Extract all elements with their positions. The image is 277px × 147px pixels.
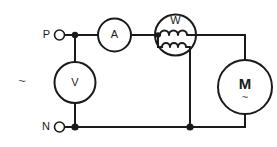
neutral-terminal-label: N xyxy=(42,120,50,132)
circuit-diagram: A W V M ~ P N ~ xyxy=(0,0,277,147)
junction-dot-voltmeter-bottom xyxy=(71,123,78,130)
phase-terminal-label: P xyxy=(43,28,50,40)
wattmeter-current-coil xyxy=(155,31,196,36)
neutral-terminal-circle-icon xyxy=(55,122,65,132)
supply-ac-symbol: ~ xyxy=(18,73,26,88)
ammeter-label: A xyxy=(111,28,119,40)
junction-dot-voltmeter-top xyxy=(72,32,78,38)
motor-label: M xyxy=(239,75,252,92)
wattmeter-label: W xyxy=(170,14,181,26)
phase-terminal-circle-icon xyxy=(55,30,65,40)
circuit-diagram-canvas: A W V M ~ P N ~ xyxy=(0,0,277,147)
junction-dot-wattmeter-coil xyxy=(155,32,161,38)
motor-ac-symbol: ~ xyxy=(242,91,248,103)
junction-dot-wattmeter-bottom xyxy=(186,123,193,130)
voltmeter-label: V xyxy=(71,76,79,88)
